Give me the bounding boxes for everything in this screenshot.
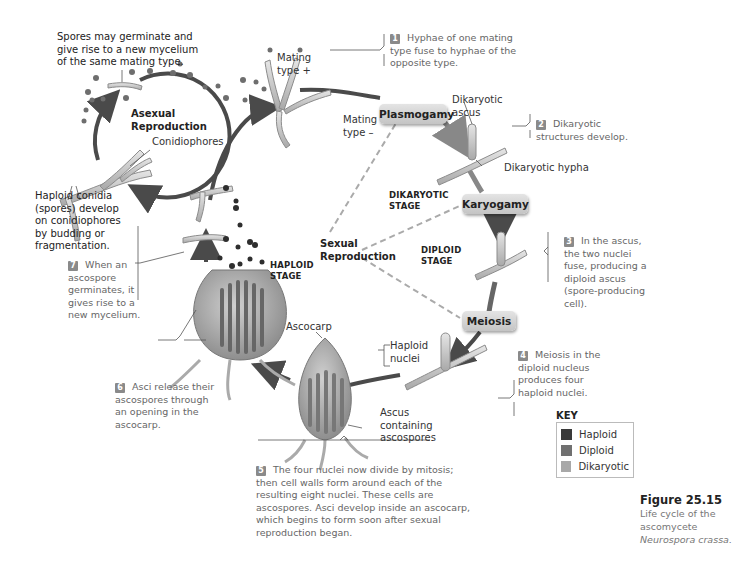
haploid-swatch [561, 429, 572, 440]
asexual-reproduction-label: Asexual Reproduction [131, 108, 207, 133]
ascus-label: Ascus containing ascospores [380, 407, 436, 445]
step-1: 1 Hyphae of one mating type fuse to hyph… [390, 32, 516, 70]
key-title: KEY [556, 410, 578, 421]
figure-number: Figure 25.15 [640, 493, 732, 507]
mating-type-minus-label: Mating type – [343, 114, 377, 139]
ascospores [218, 185, 265, 284]
sexual-reproduction-dashed-lines [330, 110, 464, 318]
step-number-badge: 2 [536, 120, 546, 130]
key-item-dikaryotic: Dikaryotic [561, 458, 629, 474]
diploid-swatch [561, 445, 572, 456]
step-6: 6 Asci release their ascospores through … [115, 381, 214, 431]
step-number-badge: 1 [390, 34, 400, 44]
plasmogamy-stage: Plasmogamy [379, 104, 447, 124]
step-number-badge: 6 [115, 383, 125, 393]
step-2: 2 Dikaryotic structures develop. [536, 118, 628, 143]
key-legend: Haploid Diploid Dikaryotic [556, 422, 634, 478]
haploid-nuclei-label: Haploid nuclei [390, 340, 428, 365]
dikaryotic-swatch [561, 461, 571, 472]
mating-type-plus-label: Mating type + [277, 52, 311, 77]
step-4: 4 Meiosis in the diploid nucleus produce… [518, 349, 600, 399]
dikaryotic-hypha-label: Dikaryotic hypha [504, 162, 589, 175]
dikaryotic-stage-label: DIKARYOTIC STAGE [389, 190, 449, 212]
haploid-stage-label: HAPLOID STAGE [270, 260, 314, 282]
dikaryotic-ascus-label: Dikaryotic ascus [452, 94, 503, 119]
figure-caption: Figure 25.15 Life cycle of the ascomycet… [640, 493, 732, 546]
meiosis-stage: Meiosis [462, 311, 516, 331]
step-number-badge: 5 [256, 466, 266, 476]
step-5: 5 The four nuclei now divide by mitosis;… [256, 464, 470, 539]
sexual-reproduction-label: Sexual Reproduction [320, 238, 396, 263]
spores-germinate-note: Spores may germinate and give rise to a … [57, 31, 198, 69]
species-name: Neurospora crassa. [640, 533, 732, 546]
to-meiosis-arrow [489, 282, 495, 312]
key-item-haploid: Haploid [561, 426, 629, 442]
haploid-conidia-note: Haploid conidia (spores) develop on coni… [35, 190, 121, 253]
diploid-stage-label: DIPLOID STAGE [421, 245, 461, 267]
germination-arrow [210, 108, 270, 200]
to-karyogamy-arrow [468, 168, 482, 192]
step-number-badge: 7 [68, 261, 78, 271]
conidiophores-label: Conidiophores [152, 136, 224, 149]
young-ascocarp [285, 338, 368, 470]
karyogamy-stage: Karyogamy [462, 194, 528, 214]
step-7: 7 When an ascospore germinates, it gives… [68, 259, 140, 322]
step-3: 3 In the ascus, the two nuclei fuse, pro… [564, 235, 647, 310]
ascocarp-label: Ascocarp [286, 321, 332, 334]
key-item-diploid: Diploid [561, 442, 629, 458]
step-number-badge: 3 [564, 237, 574, 247]
step-number-badge: 4 [518, 351, 528, 361]
